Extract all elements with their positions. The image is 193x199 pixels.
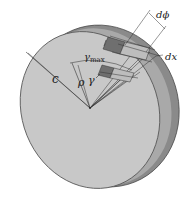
disc-face	[0, 10, 183, 199]
torsion-shaft-diagram: c ρ γ γmax dϕ dx	[0, 0, 193, 199]
label-gamma-max-sub: max	[90, 56, 105, 64]
center-point	[89, 107, 91, 109]
label-rho: ρ	[77, 76, 85, 89]
label-gamma: γ	[88, 74, 95, 87]
label-dphi: dϕ	[156, 9, 169, 20]
label-c: c	[52, 72, 59, 86]
label-dx: dx	[165, 51, 177, 62]
